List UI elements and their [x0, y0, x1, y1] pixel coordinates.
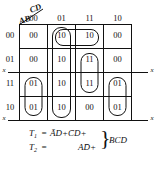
equation-2-lhs: T2	[29, 142, 37, 153]
cell-3-3: 01	[113, 102, 122, 112]
axis-marker-left-upper: x	[1, 66, 6, 74]
equation-2-terms: AD̄+	[77, 142, 96, 152]
equation-1-terms: ĀD+C̄D+	[49, 128, 87, 138]
column-header-0: 00	[29, 13, 38, 23]
cell-1-3: 00	[113, 54, 122, 64]
cell-3-0: 01	[29, 102, 38, 112]
cell-2-2: 11	[85, 78, 93, 88]
karnaugh-map-diagram: CD AB 00 01 11 10 00 01 11 10 00 10 10 0…	[0, 0, 157, 174]
cell-0-3: 00	[113, 30, 122, 40]
row-header-3: 10	[6, 102, 15, 112]
cell-1-0: 00	[29, 54, 38, 64]
cell-3-2: 00	[85, 102, 94, 112]
row-header-0: 00	[6, 30, 15, 40]
cell-0-2: 10	[85, 30, 94, 40]
equation-1-equals: =	[41, 128, 47, 138]
cell-0-1: 10	[57, 30, 66, 40]
column-header-3: 10	[113, 13, 122, 23]
equation-1-lhs: T1	[29, 128, 37, 139]
equation-2-equals: =	[41, 142, 47, 152]
axis-marker-right-upper: x	[149, 66, 154, 74]
row-header-2: 11	[6, 78, 14, 88]
column-header-1: 01	[57, 13, 66, 23]
axis-marker-right-lower: x	[149, 114, 154, 122]
cell-2-1: 10	[57, 78, 66, 88]
axis-marker-left-lower: x	[1, 114, 6, 122]
cell-1-1: 10	[57, 54, 66, 64]
cell-1-2: 11	[85, 54, 93, 64]
cell-3-1: 10	[57, 102, 66, 112]
cell-0-0: 00	[29, 30, 38, 40]
equation-brace-label: BCD	[109, 135, 128, 145]
equation-2-lhs-subscript: 2	[34, 147, 37, 153]
equation-1-lhs-subscript: 1	[34, 133, 37, 139]
cell-2-0: 01	[29, 78, 38, 88]
cell-2-3: 01	[113, 78, 122, 88]
column-header-2: 11	[85, 13, 93, 23]
row-header-1: 01	[6, 54, 15, 64]
